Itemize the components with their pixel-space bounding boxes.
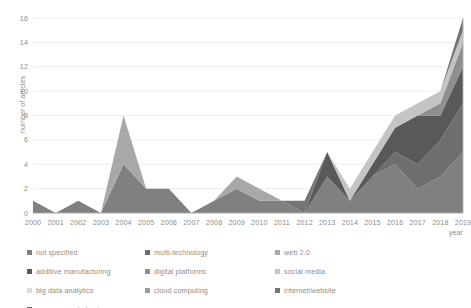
x-tick-label: 2019 <box>450 218 471 227</box>
chart-legend: not specifiedmulti-technologyweb 2.0addi… <box>27 243 467 308</box>
legend-item[interactable]: web 2.0 <box>275 248 467 257</box>
legend-item[interactable]: internet/website <box>275 286 467 295</box>
x-axis-title: year <box>449 228 463 237</box>
chart-figure: 0246810121416 20002001200220032004200520… <box>0 0 471 308</box>
legend-item[interactable]: cloud computing <box>145 286 275 295</box>
legend-label: social media <box>284 267 325 276</box>
legend-item[interactable]: digital platforms <box>145 267 275 276</box>
legend-item[interactable]: big data analytics <box>27 286 145 295</box>
y-tick-label: 14 <box>6 38 28 47</box>
legend-label: web 2.0 <box>284 248 310 257</box>
y-tick-label: 2 <box>6 184 28 193</box>
y-axis-title: number of articles <box>18 70 27 140</box>
legend-swatch-icon <box>275 250 280 255</box>
legend-swatch-icon <box>145 250 150 255</box>
legend-label: not specified <box>36 248 78 257</box>
legend-item[interactable]: not specified <box>27 248 145 257</box>
legend-swatch-icon <box>275 288 280 293</box>
legend-swatch-icon <box>145 288 150 293</box>
legend-label: big data analytics <box>36 286 93 295</box>
legend-label: cloud computing <box>154 286 208 295</box>
legend-item[interactable]: additive manufacturing <box>27 267 145 276</box>
legend-label: additive manufacturing <box>36 267 111 276</box>
y-tick-label: 16 <box>6 14 28 23</box>
legend-swatch-icon <box>145 269 150 274</box>
stacked-area-svg <box>0 0 471 232</box>
y-tick-label: 4 <box>6 160 28 169</box>
legend-label: multi-technology <box>154 248 208 257</box>
legend-item[interactable]: social media <box>275 267 467 276</box>
chart-plot-area: 0246810121416 20002001200220032004200520… <box>0 0 471 232</box>
y-tick-label: 0 <box>6 209 28 218</box>
legend-swatch-icon <box>27 250 32 255</box>
legend-swatch-icon <box>27 288 32 293</box>
legend-label: digital platforms <box>154 267 206 276</box>
legend-swatch-icon <box>275 269 280 274</box>
legend-item[interactable]: multi-technology <box>145 248 275 257</box>
legend-label: internet/website <box>284 286 336 295</box>
legend-swatch-icon <box>27 269 32 274</box>
